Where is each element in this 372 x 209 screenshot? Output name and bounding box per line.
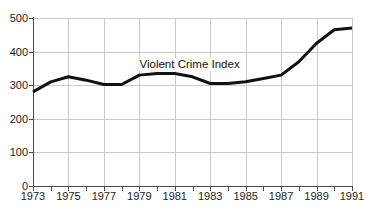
x-axis-tick xyxy=(334,187,335,191)
x-axis-tick-label: 1979 xyxy=(119,191,159,202)
x-axis-tick xyxy=(228,187,229,191)
x-axis-tick xyxy=(139,187,140,191)
clipped-title-strip: wwww xyxy=(0,0,372,9)
x-axis-tick-label: 1981 xyxy=(155,191,195,202)
x-axis-tick-label: 1991 xyxy=(332,191,372,202)
x-axis-tick-label: 1985 xyxy=(226,191,266,202)
x-axis-tick xyxy=(299,187,300,191)
y-axis-tick-label: 300 xyxy=(2,80,28,91)
violent-crime-index-chart: wwww 0100200300400500 197319751977197919… xyxy=(0,0,372,209)
x-axis-tick-label: 1973 xyxy=(13,191,53,202)
x-axis-tick-label: 1987 xyxy=(261,191,301,202)
y-axis-tick-label: 400 xyxy=(2,47,28,58)
series-annotation-violent-crime-index: Violent Crime Index xyxy=(138,58,242,71)
x-axis-tick xyxy=(210,187,211,191)
x-axis-tick xyxy=(51,187,52,191)
x-axis-tick xyxy=(175,187,176,191)
x-axis-tick xyxy=(104,187,105,191)
y-axis-tick-label: 200 xyxy=(2,114,28,125)
x-axis-tick xyxy=(193,187,194,191)
x-axis-tick xyxy=(68,187,69,191)
x-axis-tick xyxy=(122,187,123,191)
x-axis-tick xyxy=(317,187,318,191)
y-axis-tick-label: 500 xyxy=(2,13,28,24)
violent-crime-index-line xyxy=(33,18,352,186)
x-axis-tick xyxy=(281,187,282,191)
x-axis-tick xyxy=(157,187,158,191)
x-axis-tick xyxy=(86,187,87,191)
y-axis-tick-label: 100 xyxy=(2,147,28,158)
x-axis-tick xyxy=(352,187,353,191)
x-axis-tick-label: 1977 xyxy=(84,191,124,202)
x-axis-tick-label: 1975 xyxy=(48,191,88,202)
x-axis-tick-label: 1989 xyxy=(297,191,337,202)
clipped-title-text: wwww xyxy=(0,0,372,2)
x-axis-tick xyxy=(33,187,34,191)
x-axis-tick xyxy=(263,187,264,191)
x-axis-tick xyxy=(246,187,247,191)
x-axis-tick-label: 1983 xyxy=(190,191,230,202)
gridline-vertical xyxy=(352,18,353,186)
